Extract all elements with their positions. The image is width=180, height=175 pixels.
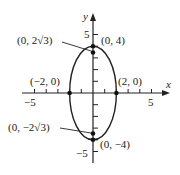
ellipse-diagram: y x 5 −5 −5 5 (0, 4) (0, 2√3) (−2, 0) (2… bbox=[0, 0, 180, 175]
point-label-focus-bottom: (0, −2√3) bbox=[8, 121, 50, 134]
x-arrow-icon bbox=[162, 90, 170, 96]
tick-label-xneg5: −5 bbox=[24, 96, 36, 108]
tick-label-x5: 5 bbox=[148, 96, 154, 108]
x-axis-label: x bbox=[165, 78, 171, 90]
plot: y x 5 −5 −5 5 (0, 4) (0, 2√3) (−2, 0) (2… bbox=[0, 0, 180, 175]
y-axis-label: y bbox=[82, 10, 88, 22]
point-label-left: (−2, 0) bbox=[30, 75, 60, 88]
point-label-bottom: (0, −4) bbox=[100, 138, 130, 151]
y-arrow-icon bbox=[90, 13, 96, 21]
tick-label-y5: 5 bbox=[84, 28, 90, 40]
point-label-right: (2, 0) bbox=[118, 75, 142, 88]
point-label-top: (0, 4) bbox=[101, 34, 125, 47]
leader-bottom bbox=[60, 128, 91, 133]
tick-label-yneg5: −5 bbox=[76, 147, 88, 159]
point-label-focus-top: (0, 2√3) bbox=[17, 34, 53, 47]
leader-top bbox=[62, 42, 91, 51]
